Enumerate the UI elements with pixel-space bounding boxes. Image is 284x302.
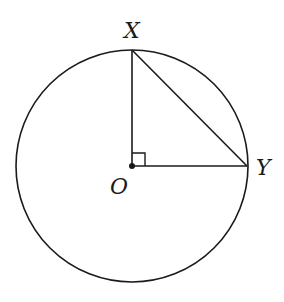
- geometry-diagram: X O Y: [0, 0, 284, 302]
- label-y: Y: [256, 155, 273, 180]
- chord-xy: [132, 50, 247, 166]
- label-x: X: [122, 18, 141, 43]
- center-point: [129, 163, 135, 169]
- label-o: O: [110, 174, 128, 199]
